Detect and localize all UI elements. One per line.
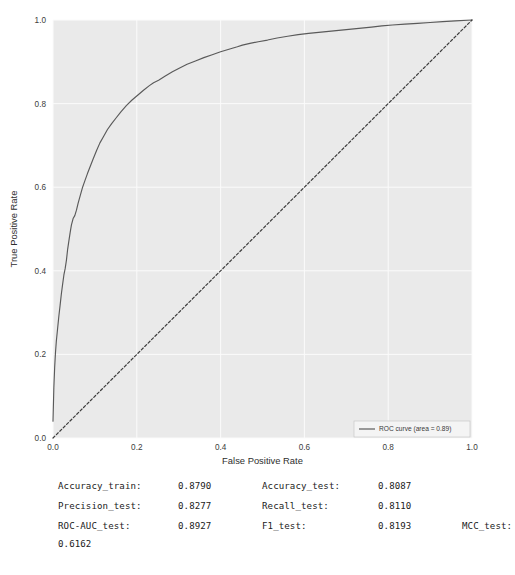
y-axis-title: True Positive Rate: [8, 191, 19, 268]
y-axis-tick-label: 0.6: [35, 183, 47, 192]
legend-entry-label: ROC curve (area = 0.89): [379, 425, 451, 433]
x-axis-tick-label: 1.0: [466, 443, 478, 452]
metric-value: 0.8193: [378, 516, 462, 536]
y-axis-tick-labels: 0.00.20.40.60.81.0: [35, 16, 47, 443]
metric-label: Accuracy_test:: [262, 476, 378, 496]
y-axis-tick-label: 0.8: [35, 100, 47, 109]
y-axis-tick-label: 1.0: [35, 16, 47, 25]
metric-label: MCC_test:: [462, 516, 515, 536]
x-axis-tick-labels: 0.00.20.40.60.81.0: [47, 443, 478, 452]
x-axis-title: False Positive Rate: [222, 455, 303, 466]
x-axis-tick-label: 0.2: [131, 443, 143, 452]
metric-label: Recall_test:: [262, 496, 378, 516]
x-axis-tick-label: 0.6: [299, 443, 311, 452]
metrics-row: Accuracy_train:0.8790Accuracy_test:0.808…: [0, 476, 494, 496]
roc-plot-svg: 0.00.20.40.60.81.0 0.00.20.40.60.81.0 Fa…: [0, 0, 494, 472]
metrics-row-wrapped: 0.6162: [0, 536, 494, 552]
metric-value-wrapped: 0.6162: [58, 536, 91, 552]
metric-label: Accuracy_train:: [58, 476, 178, 496]
metric-value: 0.8087: [378, 476, 462, 496]
metrics-row: Precision_test:0.8277Recall_test:0.8110: [0, 496, 494, 516]
metric-value: 0.8790: [178, 476, 262, 496]
metric-label: F1_test:: [262, 516, 378, 536]
y-axis-tick-label: 0.2: [35, 350, 47, 359]
chart-legend[interactable]: ROC curve (area = 0.89): [354, 421, 470, 437]
x-axis-tick-label: 0.0: [47, 443, 59, 452]
metrics-row: ROC-AUC_test:0.8927F1_test:0.8193MCC_tes…: [0, 516, 494, 536]
metrics-summary: Accuracy_train:0.8790Accuracy_test:0.808…: [0, 476, 494, 552]
y-axis-tick-label: 0.0: [35, 434, 47, 443]
x-axis-tick-label: 0.4: [215, 443, 227, 452]
roc-chart: 0.00.20.40.60.81.0 0.00.20.40.60.81.0 Fa…: [0, 0, 494, 472]
x-axis-tick-label: 0.8: [383, 443, 395, 452]
metric-value: 0.8927: [178, 516, 262, 536]
metric-value: 0.8277: [178, 496, 262, 516]
metric-value: 0.8110: [378, 496, 462, 516]
y-axis-tick-label: 0.4: [35, 267, 47, 276]
metric-label: ROC-AUC_test:: [58, 516, 178, 536]
metric-label: Precision_test:: [58, 496, 178, 516]
